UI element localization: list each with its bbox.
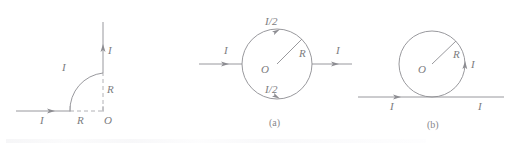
label-current-vertical-p1: I: [108, 45, 112, 56]
label-current-loop-b: I: [471, 59, 475, 70]
label-radius-vertical-p1: R: [107, 84, 114, 95]
label-radius-b: R: [453, 49, 460, 60]
label-current-left-b: I: [390, 101, 394, 112]
label-current-horizontal-p1: I: [40, 115, 44, 126]
label-current-right-b: I: [478, 101, 482, 112]
label-current-bottom-a: I/2: [265, 84, 278, 95]
caption-panel-a: (a): [269, 118, 280, 128]
label-current-in-a: I: [224, 45, 228, 56]
label-current-top-a: I/2: [265, 16, 278, 27]
label-current-arc-p1: I: [62, 62, 66, 73]
label-radius-horizontal-p1: R: [77, 115, 84, 126]
label-origin-p1: O: [104, 115, 112, 126]
arrowhead-top-branch-a: [272, 29, 280, 35]
page-edge-artifact: [6, 139, 426, 143]
label-center-b: O: [418, 64, 426, 75]
panel-tangent-loop: [358, 31, 504, 100]
panel-quarter-arc: [16, 22, 106, 114]
quarter-arc-wire: [70, 73, 103, 111]
figure-sheet: I R O R I I I I/2 I/2 O R I (a) I I O R …: [0, 0, 508, 147]
label-current-out-a: I: [336, 45, 340, 56]
label-radius-a: R: [299, 48, 306, 59]
label-center-a: O: [261, 64, 269, 75]
caption-panel-b: (b): [427, 120, 439, 130]
